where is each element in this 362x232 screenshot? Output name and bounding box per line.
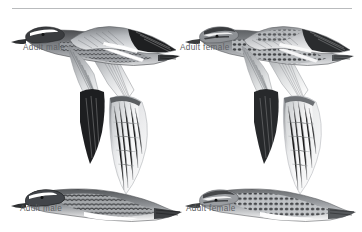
caption-top-left: Adult male (23, 44, 65, 52)
illustration-plate: Adult male (0, 0, 362, 232)
caption-bottom-right: Adult female (186, 205, 236, 213)
caption-bottom-left: Adult male (20, 205, 62, 213)
header-rule (12, 8, 352, 9)
caption-top-right: Adult female (180, 44, 230, 52)
